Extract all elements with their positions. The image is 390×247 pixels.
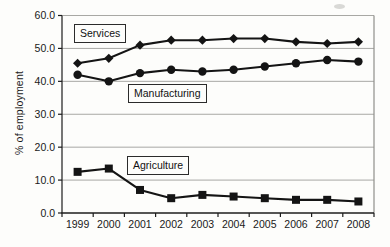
diamond-icon: [198, 36, 207, 45]
scan-smudge-artifact: [334, 4, 345, 9]
x-tick-label: 2000: [97, 218, 121, 230]
diamond-icon: [229, 34, 238, 43]
x-tick-label: 2001: [128, 218, 152, 230]
circle-icon: [198, 67, 206, 75]
circle-icon: [136, 69, 144, 77]
square-icon: [198, 191, 206, 199]
x-tick-label: 2005: [253, 218, 277, 230]
square-icon: [261, 194, 269, 202]
x-tick-label: 2008: [347, 218, 371, 230]
diamond-icon: [260, 34, 269, 43]
diamond-icon: [167, 36, 176, 45]
series-label-agriculture: Agriculture: [127, 156, 189, 175]
square-icon: [323, 196, 331, 204]
y-tick-label: 60.0: [35, 9, 56, 21]
series-line-manufacturing: [78, 60, 359, 81]
y-tick-label: 30.0: [35, 108, 56, 120]
y-tick-label: 10.0: [35, 174, 56, 186]
square-icon: [292, 196, 300, 204]
plot-area: 0.010.020.030.040.050.060.01999200020012…: [0, 0, 390, 247]
y-tick-label: 0.0: [40, 207, 55, 219]
square-icon: [136, 186, 144, 194]
square-icon: [230, 193, 238, 201]
diamond-icon: [104, 54, 113, 63]
circle-icon: [323, 56, 331, 64]
square-icon: [354, 197, 362, 205]
x-tick-label: 1999: [66, 218, 90, 230]
y-tick-label: 20.0: [35, 141, 56, 153]
circle-icon: [73, 71, 81, 79]
x-tick-label: 2002: [160, 218, 184, 230]
square-icon: [74, 168, 82, 176]
employment-line-chart: 0.010.020.030.040.050.060.01999200020012…: [0, 0, 390, 247]
square-icon: [105, 165, 113, 173]
y-axis-title: % of employment: [13, 7, 25, 219]
diamond-icon: [291, 37, 300, 46]
y-tick-label: 40.0: [35, 75, 56, 87]
circle-icon: [261, 62, 269, 70]
diamond-icon: [354, 37, 363, 46]
circle-icon: [354, 57, 362, 65]
series-label-manufacturing: Manufacturing: [128, 84, 207, 103]
x-tick-label: 2004: [222, 218, 246, 230]
x-tick-label: 2007: [316, 218, 340, 230]
circle-icon: [229, 66, 237, 74]
circle-icon: [105, 77, 113, 85]
diamond-icon: [323, 39, 332, 48]
y-tick-label: 50.0: [35, 42, 56, 54]
x-tick-label: 2003: [191, 218, 215, 230]
diamond-icon: [73, 59, 82, 68]
square-icon: [167, 194, 175, 202]
circle-icon: [292, 59, 300, 67]
circle-icon: [167, 66, 175, 74]
x-tick-label: 2006: [284, 218, 308, 230]
series-label-services: Services: [74, 24, 126, 43]
series-line-agriculture: [78, 169, 359, 202]
